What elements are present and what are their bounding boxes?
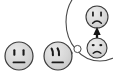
sad-face-bubble-top bbox=[86, 6, 108, 28]
thought-bubble-dot-large bbox=[74, 45, 81, 52]
face-outline bbox=[87, 38, 107, 58]
unhappy-face-bubble-bottom bbox=[87, 38, 107, 58]
scene-svg bbox=[0, 0, 113, 74]
concerned-face-right bbox=[44, 42, 72, 70]
left-eye bbox=[13, 49, 15, 55]
face-outline bbox=[5, 42, 33, 70]
illustration-canvas: Emotion thought bubble diagram Two gray … bbox=[0, 0, 113, 74]
left-eye bbox=[92, 44, 95, 46]
neutral-face-left bbox=[5, 42, 33, 70]
mouth-straight bbox=[52, 61, 64, 63]
right-eye bbox=[99, 44, 102, 46]
face-outline bbox=[44, 42, 72, 70]
mouth-straight bbox=[13, 61, 26, 63]
left-eye bbox=[92, 11, 94, 16]
face-outline bbox=[86, 6, 108, 28]
right-eye bbox=[23, 49, 25, 55]
right-eye bbox=[100, 11, 102, 16]
